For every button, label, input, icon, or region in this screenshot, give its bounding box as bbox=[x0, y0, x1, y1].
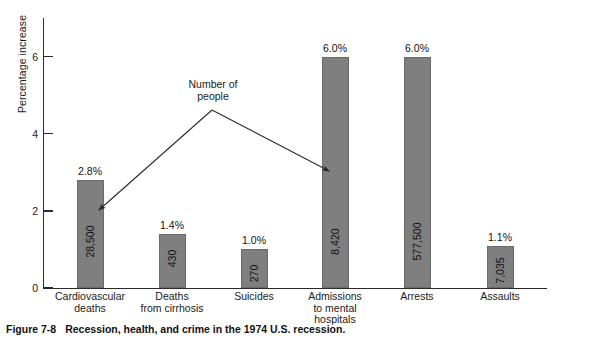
figure-caption: Figure 7-8Recession, health, and crime i… bbox=[6, 323, 586, 336]
x-axis-line bbox=[43, 288, 547, 289]
y-tick-label-2: 2 bbox=[24, 206, 38, 216]
figure-caption-text: Recession, health, and crime in the 1974… bbox=[65, 323, 345, 335]
bar-value-label-1: 1.4% bbox=[142, 220, 202, 231]
bar-value-label-0: 2.8% bbox=[60, 166, 120, 177]
x-category-label-4: Arrests bbox=[369, 291, 465, 303]
y-tick-mark-0 bbox=[44, 287, 53, 288]
bar-count-label-3: 8,420 bbox=[330, 220, 341, 264]
chart-plot-area: Percentage increase 0246 2.8%28,5001.4%4… bbox=[0, 0, 591, 300]
bar-count-label-1: 430 bbox=[167, 237, 178, 281]
figure-container: Percentage increase 0246 2.8%28,5001.4%4… bbox=[0, 0, 591, 344]
y-tick-label-4: 4 bbox=[24, 129, 38, 139]
y-tick-mark-2 bbox=[44, 210, 53, 211]
bar-value-label-3: 6.0% bbox=[305, 43, 365, 54]
leader-line-left bbox=[99, 110, 212, 210]
y-tick-label-0: 0 bbox=[24, 283, 38, 293]
y-tick-label-6: 6 bbox=[24, 52, 38, 62]
y-axis-title: Percentage increase bbox=[16, 9, 28, 119]
y-tick-mark-6 bbox=[44, 56, 53, 57]
y-axis-line bbox=[43, 18, 44, 289]
figure-caption-number: Figure 7-8 bbox=[6, 323, 56, 335]
bar-count-label-5: 7,035 bbox=[495, 248, 506, 292]
leader-line-right bbox=[212, 110, 329, 171]
bar-count-label-4: 577,500 bbox=[412, 220, 423, 264]
bar-value-label-5: 1.1% bbox=[470, 232, 530, 243]
bar-value-label-2: 1.0% bbox=[224, 235, 284, 246]
y-tick-mark-4 bbox=[44, 133, 53, 134]
bar-value-label-4: 6.0% bbox=[387, 43, 447, 54]
bar-count-label-0: 28,500 bbox=[85, 220, 96, 264]
annotation-label-number-of-people: Number of people bbox=[165, 78, 261, 102]
x-category-label-5: Assaults bbox=[452, 291, 548, 303]
